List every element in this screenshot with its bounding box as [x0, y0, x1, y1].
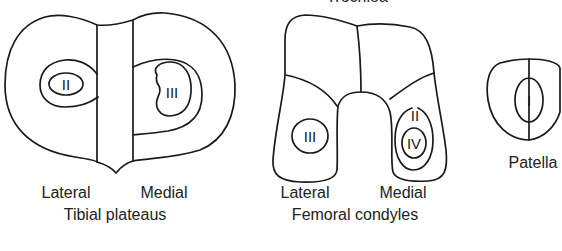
tibial-plateaus-title: Tibial plateaus [64, 206, 167, 223]
femoral-lateral-divider [286, 75, 337, 106]
femoral-medial-outer-grade: II [411, 107, 419, 124]
femoral-middle-divider [357, 26, 361, 92]
tibial-outer-contour [5, 13, 235, 173]
tibial-plateaus-drawing: II III [5, 13, 235, 173]
tibial-lateral-grade: II [62, 76, 70, 93]
tibial-medial-grade: III [166, 84, 179, 101]
femoral-condyles-drawing: III II IV [273, 15, 447, 182]
cartilage-lesion-diagram: Trochlea II III Lateral Medial Tibial pl… [0, 0, 562, 251]
femoral-outer-contour [273, 15, 447, 182]
femoral-medial-divider [390, 73, 434, 99]
femoral-lateral-label: Lateral [281, 184, 330, 201]
patella-outer-contour [487, 59, 560, 140]
femoral-lateral-grade: III [304, 128, 317, 145]
patella-label: Patella [509, 154, 558, 171]
patella-drawing: I [487, 59, 560, 140]
femoral-medial-inner-grade: IV [407, 135, 421, 152]
tibial-medial-label: Medial [140, 184, 187, 201]
tibial-lateral-label: Lateral [42, 184, 91, 201]
patella-grade: I [527, 92, 531, 109]
trochlea-label-cut: Trochlea [326, 0, 388, 5]
femoral-medial-label: Medial [379, 184, 426, 201]
femoral-condyles-title: Femoral condyles [292, 206, 418, 223]
